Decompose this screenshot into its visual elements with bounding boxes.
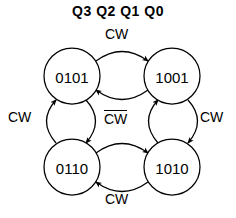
state-node-1010: 1010 — [144, 139, 200, 195]
state-node-0101: 0101 — [44, 48, 100, 104]
edge-label-bottom: CW — [105, 192, 128, 207]
edge-label-left: CW — [8, 110, 31, 125]
state-node-0110: 0110 — [44, 139, 100, 195]
transition-0101-to-0110 — [86, 100, 96, 143]
state-label: 1010 — [155, 160, 188, 177]
transition-1001-to-0101 — [96, 90, 148, 100]
transition-1001-to-1010 — [188, 100, 198, 143]
state-label: 0101 — [55, 69, 88, 86]
transition-0110-to-1010 — [96, 144, 148, 154]
transition-0110-to-0101 — [47, 100, 57, 143]
state-label: 1001 — [155, 69, 188, 86]
state-diagram-figure: Q3 Q2 Q1 Q0 0101 — [0, 0, 236, 218]
state-label: 0110 — [56, 160, 88, 177]
edge-label-top: CW — [105, 27, 128, 42]
state-node-1001: 1001 — [144, 48, 200, 104]
edge-label-right: CW — [200, 110, 223, 125]
edge-label-center-cw-bar: CW — [104, 110, 127, 127]
transition-1010-to-1001 — [149, 100, 159, 143]
transition-0101-to-1001 — [96, 52, 148, 62]
